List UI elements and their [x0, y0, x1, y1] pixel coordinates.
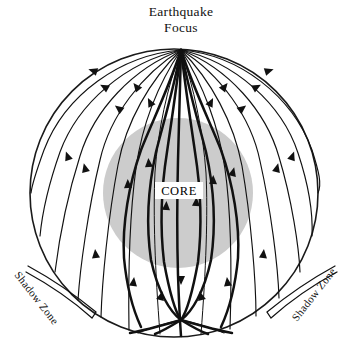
arrowhead-icon [62, 150, 73, 161]
shadow-zone-brackets [26, 266, 337, 318]
arrowhead-icon [129, 277, 138, 287]
arrowhead-icon [130, 80, 142, 92]
arrowhead-icon [264, 66, 275, 76]
arrowhead-icon [98, 81, 110, 92]
page-title-line-1: Earthquake [149, 4, 213, 19]
shadow-zone-label-right: Shadow Zone [289, 265, 338, 323]
core-label: CORE [161, 184, 197, 198]
arrowhead-icon [287, 150, 298, 161]
arrowhead-icon [237, 102, 249, 114]
arrowhead-icon [91, 249, 100, 259]
arrowhead-icon [219, 80, 231, 92]
arrowhead-icon [112, 102, 124, 114]
arrowhead-icon [259, 249, 268, 259]
page-title-line-2: Focus [164, 20, 198, 35]
seismic-ray-diagram: Earthquake Focus CORE Shadow Zone Shadow… [0, 0, 363, 358]
diagram-canvas: Earthquake Focus CORE Shadow Zone Shadow… [0, 0, 363, 358]
arrowhead-icon [80, 162, 90, 173]
